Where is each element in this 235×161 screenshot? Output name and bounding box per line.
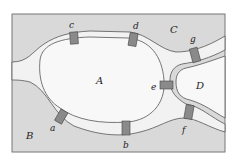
label-bridge-g: g [190, 34, 196, 44]
label-region-c: C [170, 24, 178, 35]
label-bridge-b: b [123, 140, 129, 150]
konigsberg-diagram: c d C g A e D a b f B [0, 0, 235, 161]
bridge-e [160, 81, 173, 89]
label-bridge-d: d [133, 21, 139, 31]
label-region-d: D [195, 80, 204, 91]
label-region-b: B [25, 130, 33, 141]
label-region-a: A [95, 75, 103, 86]
label-bridge-e: e [151, 82, 156, 92]
bridge-b [122, 121, 130, 135]
bridge-c [70, 32, 79, 45]
label-bridge-a: a [50, 123, 55, 133]
label-bridge-c: c [69, 20, 74, 30]
